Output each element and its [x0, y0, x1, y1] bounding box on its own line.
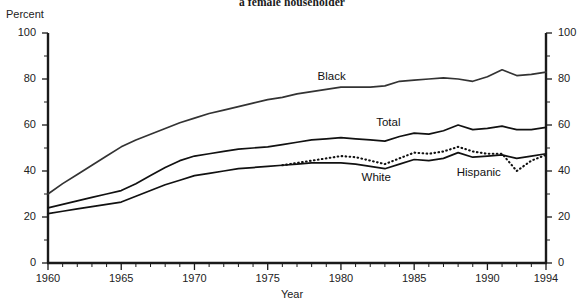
y-tick-label-left: 20	[10, 210, 36, 222]
axes	[42, 33, 552, 270]
y-tick-label-right: 80	[558, 72, 584, 84]
y-tick-label-right: 100	[558, 26, 584, 38]
y-tick-label-left: 0	[10, 256, 36, 268]
y-tick-label-left: 80	[10, 72, 36, 84]
y-tick-label-left: 60	[10, 118, 36, 130]
plot-area	[0, 0, 584, 308]
y-tick-label-left: 40	[10, 164, 36, 176]
y-tick-label-left: 100	[10, 26, 36, 38]
y-tick-label-right: 60	[558, 118, 584, 130]
x-tick-label: 1975	[248, 272, 288, 284]
x-tick-label: 1994	[526, 272, 566, 284]
series-lines	[48, 70, 546, 214]
series-label-hispanic: Hispanic	[457, 166, 501, 178]
y-tick-label-right: 40	[558, 164, 584, 176]
chart-figure: a female householder Percent Year 020406…	[0, 0, 584, 308]
series-label-total: Total	[376, 116, 400, 128]
x-tick-label: 1970	[174, 272, 214, 284]
y-tick-label-right: 0	[558, 256, 584, 268]
x-tick-label: 1965	[101, 272, 141, 284]
series-label-black: Black	[318, 70, 346, 82]
x-tick-label: 1990	[467, 272, 507, 284]
series-line-white	[48, 153, 546, 214]
series-label-white: White	[362, 171, 391, 183]
x-tick-label: 1980	[321, 272, 361, 284]
x-tick-label: 1960	[28, 272, 68, 284]
x-tick-label: 1985	[394, 272, 434, 284]
y-tick-label-right: 20	[558, 210, 584, 222]
